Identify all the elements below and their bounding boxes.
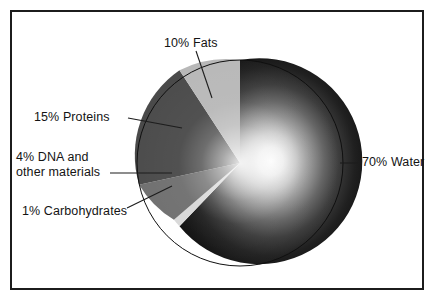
pie-chart-figure: 10% Fats 15% Proteins 4% DNA and other m… [0, 0, 437, 308]
pie-label-water: 70% Water [362, 155, 424, 170]
pie-label-dna-line2: other materials [16, 165, 100, 180]
pie-label-dna: 4% DNA and other materials [16, 150, 100, 180]
pie-label-carbohydrates: 1% Carbohydrates [22, 204, 127, 219]
pie-label-proteins: 15% Proteins [34, 110, 110, 125]
pie-label-fats: 10% Fats [164, 36, 218, 51]
pie-label-dna-line1: 4% DNA and [16, 150, 100, 165]
